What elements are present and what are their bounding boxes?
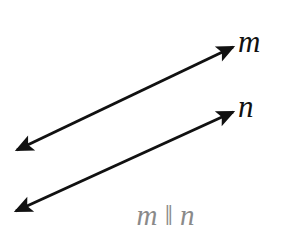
line-m-label: m (238, 26, 260, 57)
line-n-label: n (238, 91, 254, 122)
parallel-relation-caption: m ‖ n (0, 200, 289, 232)
line-n (16, 112, 233, 211)
line-m (17, 47, 233, 150)
parallel-lines-diagram: m n m ‖ n (0, 0, 289, 247)
